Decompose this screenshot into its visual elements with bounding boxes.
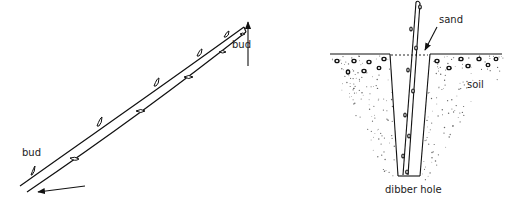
soil-stipple xyxy=(332,55,504,180)
label-soil: soil xyxy=(467,80,484,90)
sand-pointer-arrow xyxy=(425,27,437,50)
label-sand: sand xyxy=(439,15,463,25)
dibber-hole-walls xyxy=(390,54,430,176)
label-bud-bottom: bud xyxy=(22,148,41,158)
diagram-drawing xyxy=(0,0,520,209)
left-buds-upper xyxy=(31,31,229,175)
down-arrow xyxy=(38,186,85,192)
label-bud-top: bud xyxy=(232,40,251,50)
left-cutting-stem xyxy=(20,27,246,192)
left-buds-lower xyxy=(70,33,245,160)
label-dibber-hole: dibber hole xyxy=(385,185,442,195)
diagram-canvas: bud bud sand soil dibber hole xyxy=(0,0,520,209)
